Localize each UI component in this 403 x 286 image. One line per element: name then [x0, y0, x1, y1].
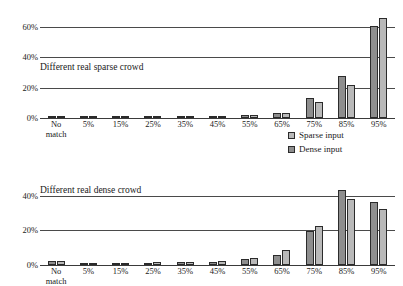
bar [57, 116, 65, 118]
x-axis-tick-label: 75% [298, 267, 330, 286]
plot-area-bottom [40, 187, 395, 265]
bar [273, 255, 281, 265]
bar [379, 18, 387, 118]
x-axis-tick-label: 35% [169, 120, 201, 139]
bar [112, 263, 120, 265]
bar [347, 199, 355, 265]
bar [306, 98, 314, 118]
bar [177, 262, 185, 265]
bar [177, 116, 185, 118]
bar-group [105, 187, 137, 265]
bar-group [330, 187, 362, 265]
bar [241, 259, 249, 265]
bar [209, 116, 217, 118]
legend-item-sparse-input: Sparse input [288, 131, 344, 140]
bar [218, 261, 226, 265]
bar [89, 116, 97, 118]
chart-panel-sparse-crowd: 0%20%40%60% Different real sparse crowd … [0, 0, 403, 145]
y-axis-ticks-top: 0%20%40%60% [0, 12, 38, 118]
x-axis-tick-label: No match [40, 120, 72, 139]
x-axis-tick-label: 15% [105, 267, 137, 286]
bar [209, 262, 217, 265]
x-axis-tick-label: 55% [234, 120, 266, 139]
bar-group [169, 12, 201, 118]
x-axis-tick-label: 25% [137, 120, 169, 139]
bar [186, 262, 194, 265]
y-axis-tick-label: 0% [27, 261, 38, 270]
x-axis-tick-label: 95% [363, 267, 395, 286]
bar-group [266, 12, 298, 118]
bar-group [234, 12, 266, 118]
y-axis-ticks-bottom: 0%20%40% [0, 187, 38, 265]
bar [370, 202, 378, 265]
bar [241, 115, 249, 118]
bar [250, 115, 258, 118]
bar [273, 113, 281, 118]
bar [48, 116, 56, 118]
x-axis-tick-label: 95% [363, 120, 395, 139]
bar-group [363, 187, 395, 265]
bar-group [201, 187, 233, 265]
bar-group [137, 187, 169, 265]
bar [57, 261, 65, 265]
bar [144, 116, 152, 118]
bar-group [363, 12, 395, 118]
bar-group [330, 12, 362, 118]
bar-group [298, 187, 330, 265]
chart-title-top: Different real sparse crowd [40, 62, 143, 72]
y-axis-tick-label: 40% [22, 192, 38, 201]
bar [89, 263, 97, 265]
bar [347, 85, 355, 118]
bar-group [266, 187, 298, 265]
x-axis-tick-label: 65% [266, 267, 298, 286]
x-axis-tick-label: 45% [201, 267, 233, 286]
bar-group [169, 187, 201, 265]
bar [250, 258, 258, 265]
legend-label-sparse-input: Sparse input [299, 131, 344, 140]
bar [306, 231, 314, 265]
x-axis-tick-label: 55% [234, 267, 266, 286]
x-axis-tick-label: No match [40, 267, 72, 286]
bar [315, 102, 323, 118]
bar [282, 250, 290, 265]
bar [121, 116, 129, 118]
bar [379, 209, 387, 265]
chart-panel-dense-crowd: 0%20%40% Different real dense crowd No m… [0, 145, 403, 273]
y-axis-tick-label: 60% [22, 23, 38, 32]
bar [48, 261, 56, 265]
bar-group [234, 187, 266, 265]
x-axis-tick-label: 35% [169, 267, 201, 286]
bar [338, 76, 346, 118]
bar-group [72, 187, 104, 265]
y-axis-tick-label: 20% [22, 226, 38, 235]
x-axis-tick-label: 25% [137, 267, 169, 286]
y-axis-tick-label: 0% [27, 114, 38, 123]
bar-group [40, 187, 72, 265]
bar [80, 116, 88, 118]
x-axis-tick-label: 85% [330, 267, 362, 286]
bar [153, 262, 161, 265]
x-axis-tick-label: 45% [201, 120, 233, 139]
chart-title-bottom: Different real dense crowd [40, 185, 141, 195]
x-axis-labels-bottom: No match5%15%25%35%45%55%65%75%85%95% [40, 267, 395, 286]
bars-bottom [40, 187, 395, 265]
legend-swatch-sparse-icon [288, 132, 295, 139]
x-axis-tick-label: 15% [105, 120, 137, 139]
bar [338, 190, 346, 265]
bar [144, 263, 152, 265]
y-axis-tick-label: 20% [22, 84, 38, 93]
bar-group [298, 12, 330, 118]
bar [218, 116, 226, 118]
bar [315, 226, 323, 265]
bar [121, 263, 129, 265]
bar [282, 113, 290, 118]
x-axis-tick-label: 5% [72, 120, 104, 139]
x-axis-tick-label: 5% [72, 267, 104, 286]
bar-group [201, 12, 233, 118]
bar [370, 26, 378, 118]
bar [112, 116, 120, 118]
bar [153, 116, 161, 118]
y-axis-tick-label: 40% [22, 53, 38, 62]
bar [80, 263, 88, 265]
